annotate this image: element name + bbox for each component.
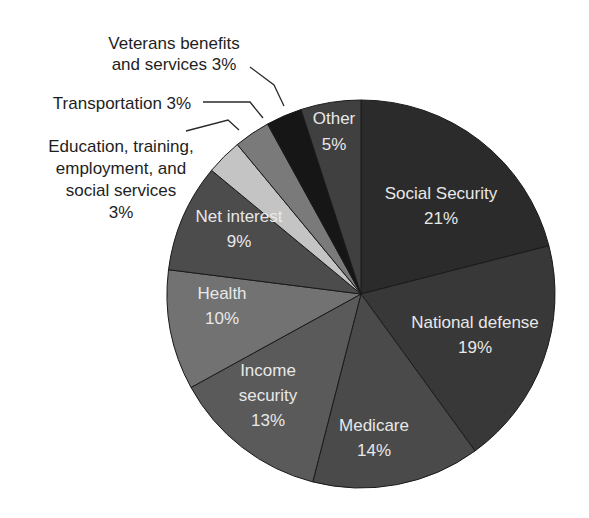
svg-text:14%: 14% [357,441,391,460]
svg-text:9%: 9% [227,232,252,251]
svg-text:National defense: National defense [411,313,539,332]
svg-text:Education, training,: Education, training, [48,137,194,156]
svg-text:social services: social services [66,181,177,200]
svg-text:Social Security: Social Security [385,184,498,203]
svg-text:13%: 13% [251,411,285,430]
svg-text:10%: 10% [205,309,239,328]
svg-text:and services 3%: and services 3% [112,55,237,74]
svg-text:Income: Income [240,361,296,380]
label-transportation: Transportation 3% [53,94,191,113]
svg-text:Veterans benefits: Veterans benefits [108,34,239,53]
svg-text:21%: 21% [424,209,458,228]
leader-line-transportation [203,102,263,118]
leader-line-education [186,120,239,131]
svg-text:Health: Health [197,284,246,303]
svg-text:Other: Other [313,109,356,128]
pie-chart: Social Security 21% National defense 19%… [0,0,589,518]
label-education: Education, training, employment, and soc… [48,137,194,222]
label-veterans: Veterans benefits and services 3% [108,34,239,74]
svg-text:5%: 5% [322,135,347,154]
svg-text:security: security [239,386,298,405]
svg-text:19%: 19% [458,338,492,357]
svg-text:3%: 3% [109,203,134,222]
leader-line-veterans [250,67,284,106]
svg-text:Transportation 3%: Transportation 3% [53,94,191,113]
svg-text:employment, and: employment, and [56,159,186,178]
svg-text:Net interest: Net interest [196,207,283,226]
svg-text:Medicare: Medicare [339,416,409,435]
